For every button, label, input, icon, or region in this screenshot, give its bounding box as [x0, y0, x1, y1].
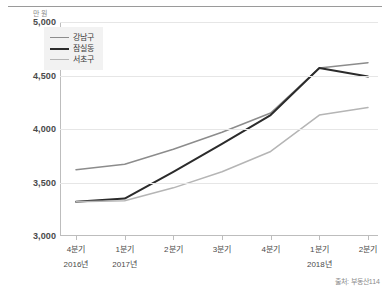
gridline: [60, 22, 378, 23]
x-tick-label: 4분기: [261, 243, 279, 254]
x-tick-mark: [222, 236, 223, 240]
x-tick-mark: [125, 236, 126, 240]
x-tick-label: 1분기: [310, 243, 328, 254]
legend-label-jamsil: 잠실동: [73, 43, 94, 54]
x-tick-label: 2분기: [164, 243, 182, 254]
x-tick-mark: [319, 236, 320, 240]
y-tick-label: 3,500: [4, 178, 56, 188]
legend-label-seocho: 서초구: [73, 54, 94, 65]
price-trend-chart: 만 원 5,0004,5004,0003,5003,000 강남구 잠실동 서초…: [0, 0, 390, 292]
chart-legend: 강남구 잠실동 서초구: [44, 27, 103, 70]
x-tick-label: 4분기: [67, 243, 85, 254]
top-divider: [8, 6, 382, 7]
legend-item-seocho: 서초구: [50, 54, 94, 65]
gridline: [60, 76, 378, 77]
y-tick-label: 3,000: [4, 231, 56, 241]
x-year-label: 2016년: [64, 258, 89, 269]
x-axis-tick-labels: 4분기1분기2분기3분기4분기1분기2분기2016년2017년2018년: [60, 236, 378, 286]
legend-swatch-gangnam: [50, 37, 69, 38]
x-tick-mark: [368, 236, 369, 240]
gridline: [60, 183, 378, 184]
y-tick-label: 5,000: [4, 17, 56, 27]
series-line-강남구: [76, 63, 368, 170]
x-year-label: 2018년: [307, 258, 332, 269]
x-tick-label: 3분기: [213, 243, 231, 254]
x-tick-mark: [76, 236, 77, 240]
legend-item-gangnam: 강남구: [50, 32, 94, 43]
source-attribution: 출처: 부동산114: [335, 276, 380, 286]
x-year-label: 2017년: [112, 258, 137, 269]
x-tick-label: 2분기: [359, 243, 377, 254]
x-tick-mark: [173, 236, 174, 240]
x-tick-label: 1분기: [115, 243, 133, 254]
legend-swatch-jamsil: [50, 48, 69, 50]
plot-area: [60, 22, 378, 236]
y-tick-label: 4,000: [4, 124, 56, 134]
legend-item-jamsil: 잠실동: [50, 43, 94, 54]
gridline: [60, 129, 378, 130]
legend-label-gangnam: 강남구: [73, 32, 94, 43]
legend-swatch-seocho: [50, 59, 69, 60]
series-line-서초구: [76, 108, 368, 202]
x-tick-mark: [271, 236, 272, 240]
y-tick-label: 4,500: [4, 71, 56, 81]
